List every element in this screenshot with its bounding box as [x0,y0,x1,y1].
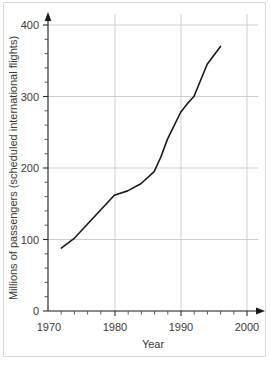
y-tick-label-300: 300 [21,91,39,103]
y-tick-labels: 400 300 200 100 0 [21,19,39,317]
data-series-line [61,46,220,248]
y-axis [45,12,52,311]
y-gridlines [48,25,258,240]
y-axis-title: Millions of passengers (scheduled intern… [7,36,19,300]
y-tick-label-200: 200 [21,162,39,174]
y-tick-label-100: 100 [21,234,39,246]
x-tick-label-1970: 1970 [37,321,61,333]
x-axis-title: Year [142,338,165,350]
x-tick-label-1980: 1980 [103,321,127,333]
y-tick-label-400: 400 [21,19,39,31]
x-tick-labels: 1970 1980 1990 2000 [37,321,259,333]
x-tick-label-1990: 1990 [169,321,193,333]
line-chart: 400 300 200 100 0 1970 1980 1990 2000 Ye… [0,0,270,368]
x-tick-label-2000: 2000 [235,321,259,333]
x-axis [48,308,265,315]
y-tick-label-0: 0 [33,305,39,317]
y-axis-arrow-icon [45,12,52,21]
x-major-ticks [115,311,247,316]
x-axis-arrow-icon [256,308,265,315]
x-gridlines [115,14,247,311]
chart-figure: 400 300 200 100 0 1970 1980 1990 2000 Ye… [0,0,270,368]
